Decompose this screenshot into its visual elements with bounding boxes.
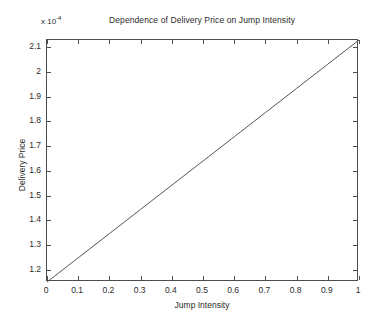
x-tick-mark-top [78,40,79,44]
data-series-line [47,40,359,282]
y-tick-mark [47,270,51,271]
y-tick-mark [47,97,51,98]
x-tick-mark-top [359,40,360,44]
y-tick-mark [47,121,51,122]
y-tick-mark-right [353,97,357,98]
x-tick-mark-top [141,40,142,44]
x-tick-mark-top [234,40,235,44]
y-tick-label: 1.2 [1,264,41,274]
y-tick-label: 2.1 [1,41,41,51]
x-tick-mark [234,276,235,280]
x-tick-label: 1 [338,285,378,295]
y-tick-label: 1.7 [1,140,41,150]
data-line-layer [47,40,359,282]
chart-page: x 10-4 Dependence of Delivery Price on J… [0,0,378,325]
x-tick-mark [172,276,173,280]
y-tick-label: 2 [1,66,41,76]
y-tick-label: 1.8 [1,115,41,125]
y-tick-mark-right [353,196,357,197]
chart-title: Dependence of Delivery Price on Jump Int… [46,15,358,25]
x-tick-mark [265,276,266,280]
y-tick-mark [47,146,51,147]
x-tick-mark [203,276,204,280]
y-tick-mark [47,220,51,221]
x-tick-mark [141,276,142,280]
y-tick-label: 1.6 [1,165,41,175]
x-tick-mark [78,276,79,280]
plot-area [46,39,358,281]
y-tick-mark-right [353,220,357,221]
x-tick-mark-top [172,40,173,44]
y-tick-label: 1.9 [1,91,41,101]
x-tick-mark [47,276,48,280]
x-tick-mark-top [109,40,110,44]
y-tick-label: 1.4 [1,214,41,224]
y-tick-mark [47,196,51,197]
y-tick-mark [47,171,51,172]
x-axis-title: Jump Intensity [46,300,358,310]
x-tick-mark-top [47,40,48,44]
x-tick-mark-top [328,40,329,44]
y-tick-mark-right [353,171,357,172]
x-tick-mark [359,276,360,280]
x-tick-mark-top [203,40,204,44]
x-tick-mark [328,276,329,280]
y-tick-mark [47,72,51,73]
y-tick-mark-right [353,72,357,73]
y-tick-mark-right [353,121,357,122]
y-tick-mark-right [353,146,357,147]
y-tick-mark-right [353,270,357,271]
y-tick-mark [47,245,51,246]
x-tick-mark-top [265,40,266,44]
x-tick-mark [297,276,298,280]
x-tick-mark [109,276,110,280]
y-tick-mark [47,47,51,48]
y-tick-mark-right [353,47,357,48]
y-tick-label: 1.5 [1,190,41,200]
x-tick-mark-top [297,40,298,44]
y-tick-mark-right [353,245,357,246]
y-tick-label: 1.3 [1,239,41,249]
